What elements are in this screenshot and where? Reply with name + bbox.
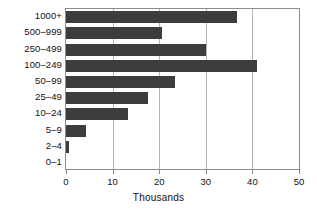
bar xyxy=(66,141,69,153)
bar-row xyxy=(66,108,299,120)
x-axis-tick-label: 40 xyxy=(237,176,267,187)
y-axis-label: 50–99 xyxy=(0,75,62,87)
y-axis-label: 0–1 xyxy=(0,156,62,168)
x-axis-tick xyxy=(113,170,114,174)
bar-row xyxy=(66,44,299,56)
bar xyxy=(66,11,237,23)
y-axis-label: 25–49 xyxy=(0,91,62,103)
bar-row xyxy=(66,141,299,153)
x-axis-tick xyxy=(66,170,67,174)
bar xyxy=(66,60,257,72)
y-axis-label: 250–499 xyxy=(0,43,62,55)
x-axis-tick-label: 10 xyxy=(98,176,128,187)
bar-chart: 1000+500–999250–499100–24950–9925–4910–2… xyxy=(0,0,317,216)
y-axis-label: 2–4 xyxy=(0,140,62,152)
bar xyxy=(66,44,206,56)
bar xyxy=(66,27,162,39)
x-axis-tick xyxy=(206,170,207,174)
y-axis-label: 10–24 xyxy=(0,107,62,119)
x-axis-tick-label: 20 xyxy=(144,176,174,187)
plot-area xyxy=(65,8,300,170)
bar xyxy=(66,92,148,104)
x-axis-tick-label: 30 xyxy=(191,176,221,187)
y-axis-category-labels: 1000+500–999250–499100–24950–9925–4910–2… xyxy=(0,8,62,170)
x-axis-tick-label: 0 xyxy=(51,176,81,187)
bar-row xyxy=(66,27,299,39)
bar xyxy=(66,108,128,120)
bar-row xyxy=(66,157,299,169)
bar-row xyxy=(66,11,299,23)
x-axis-title: Thousands xyxy=(0,192,317,203)
bar-row xyxy=(66,76,299,88)
bar-row xyxy=(66,125,299,137)
y-axis-label: 100–249 xyxy=(0,59,62,71)
bar xyxy=(66,76,175,88)
y-axis-label: 5–9 xyxy=(0,124,62,136)
bar-row xyxy=(66,60,299,72)
x-axis-tick xyxy=(252,170,253,174)
x-axis-tick-label: 50 xyxy=(284,176,314,187)
y-axis-label: 500–999 xyxy=(0,26,62,38)
bar xyxy=(66,125,86,137)
x-axis-tick xyxy=(159,170,160,174)
x-axis-tick xyxy=(299,170,300,174)
bars-layer xyxy=(66,9,299,169)
bar-row xyxy=(66,92,299,104)
y-axis-label: 1000+ xyxy=(0,10,62,22)
